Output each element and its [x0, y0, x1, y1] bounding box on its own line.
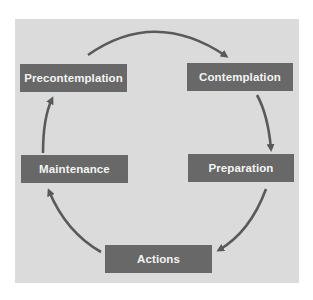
- stage-actions: Actions: [105, 245, 212, 273]
- stage-contemplation: Contemplation: [187, 63, 293, 91]
- diagram-panel: [15, 19, 299, 283]
- stage-preparation: Preparation: [188, 154, 294, 182]
- cycle-diagram: Precontemplation Contemplation Preparati…: [0, 0, 313, 300]
- stage-maintenance: Maintenance: [21, 155, 128, 183]
- stage-precontemplation: Precontemplation: [20, 64, 127, 92]
